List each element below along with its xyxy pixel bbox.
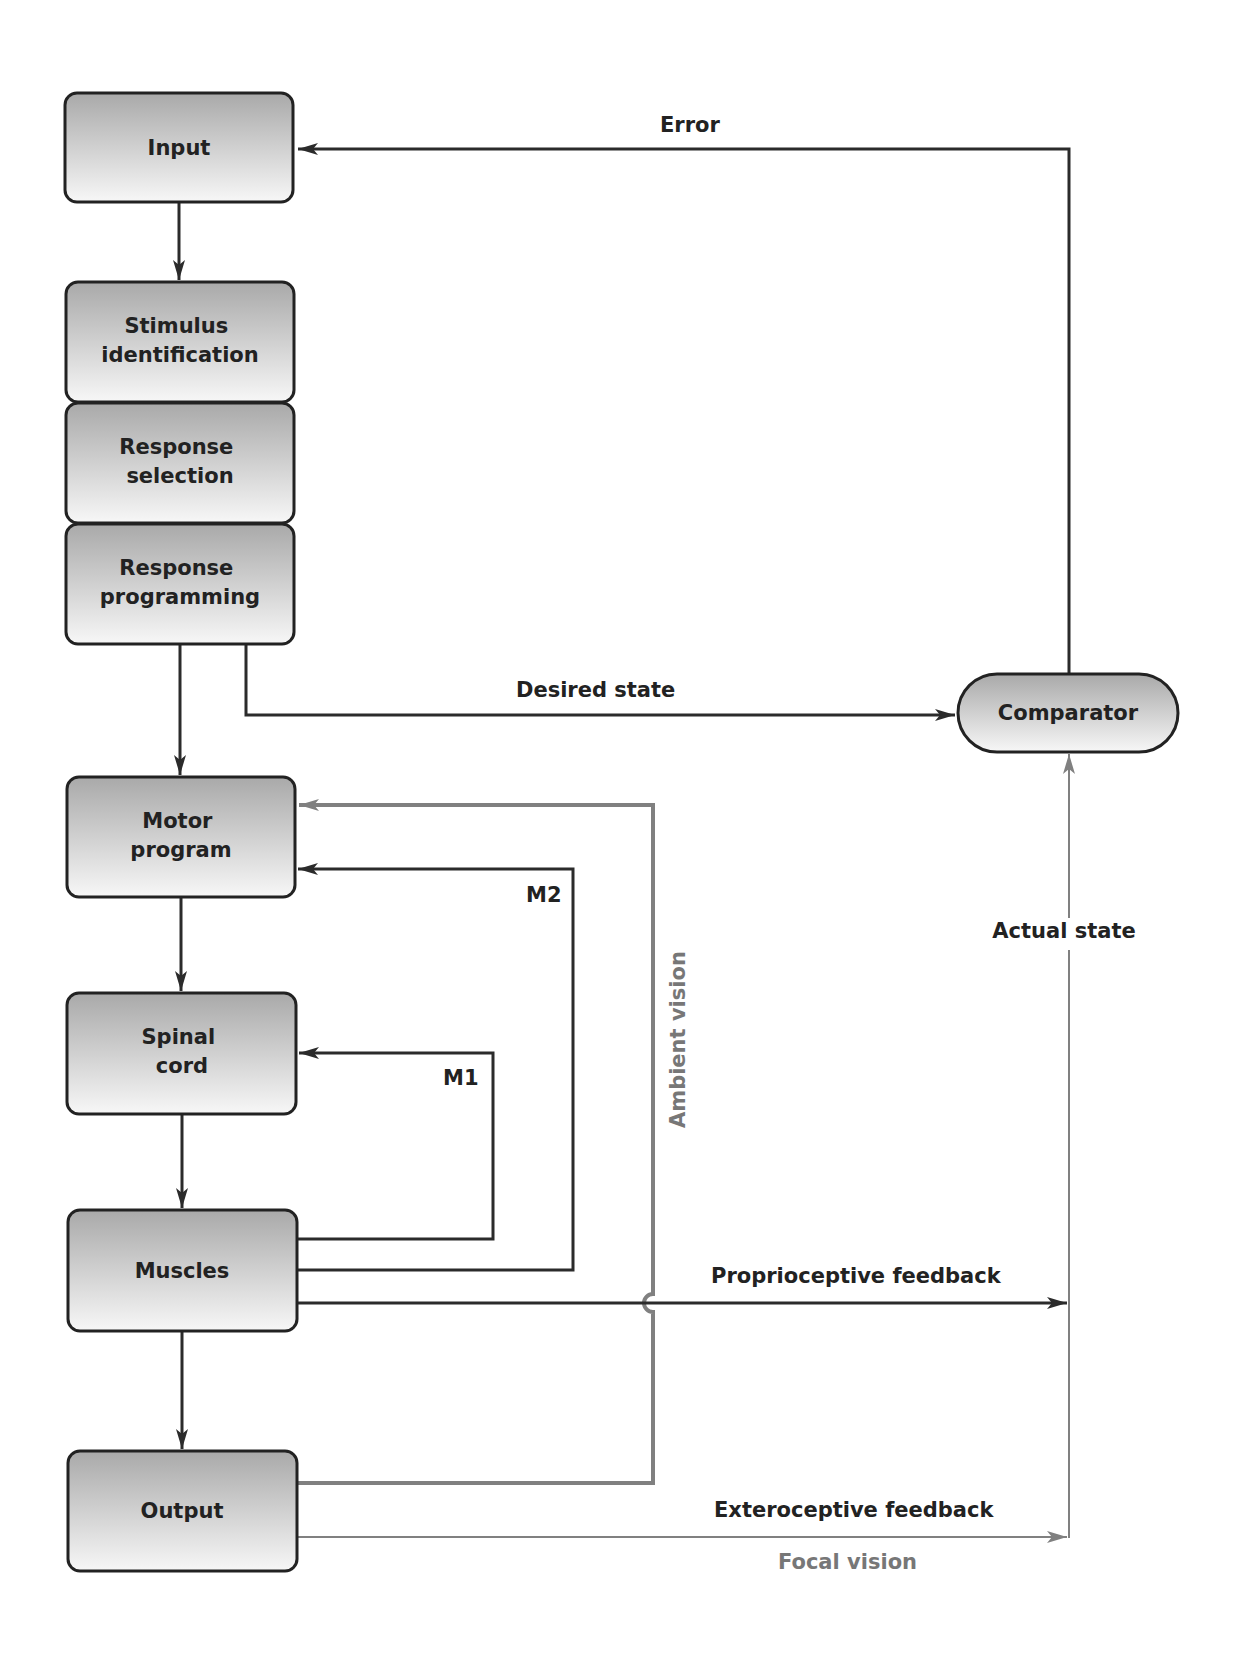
box-comparator-label: Comparator [998,701,1139,725]
arrow-m2-loop [298,869,573,1270]
box-comparator: Comparator [958,674,1178,752]
arrow-ambient-vision [298,805,653,1483]
label-proprioceptive-feedback: Proprioceptive feedback [711,1264,1002,1288]
box-response-selection: Response selection [66,403,294,523]
box-input: Input [65,93,293,202]
box-input-label: Input [148,136,211,160]
motor-control-diagram: Input Stimulus identification Response s… [0,0,1243,1668]
label-actual-state: Actual state [992,919,1135,943]
box-muscles-label: Muscles [135,1259,230,1283]
box-motor-program: Motor program [67,777,295,897]
label-focal-vision: Focal vision [778,1550,917,1574]
box-output: Output [68,1451,297,1571]
label-desired-state: Desired state [516,678,675,702]
label-m1: M1 [443,1066,479,1090]
arrow-error [298,149,1069,673]
box-output-label: Output [141,1499,224,1523]
label-error: Error [660,113,720,137]
label-ambient-vision: Ambient vision [666,951,690,1128]
box-response-programming: Response programming [66,524,294,644]
label-m2: M2 [526,883,562,907]
box-spinal-cord: Spinal cord [67,993,296,1114]
label-exteroceptive-feedback: Exteroceptive feedback [714,1498,994,1522]
box-stimulus-identification: Stimulus identification [66,282,294,402]
box-muscles: Muscles [68,1210,297,1331]
